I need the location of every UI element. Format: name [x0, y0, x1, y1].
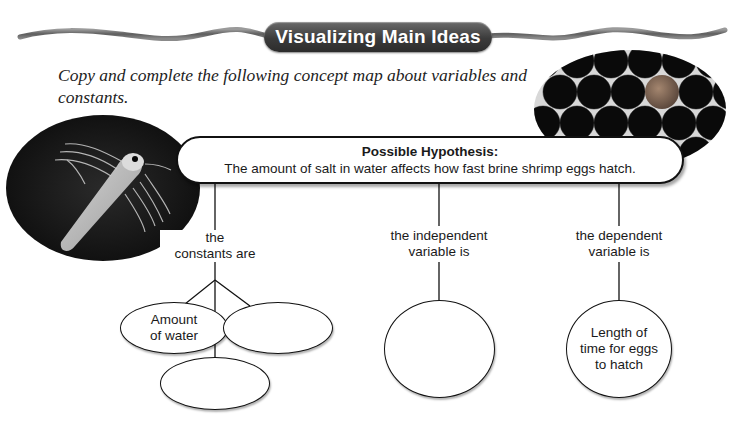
constants-label: the constants are	[160, 230, 270, 262]
dependent-label-line1: the dependent	[564, 228, 674, 244]
dependent-variable-label: the dependent variable is	[564, 228, 674, 260]
node-text-line1: Amount	[150, 312, 198, 328]
independent-variable-node[interactable]	[384, 300, 495, 398]
node-text-line3: to hatch	[580, 357, 658, 373]
independent-label-line2: variable is	[379, 244, 499, 260]
hypothesis-title: Possible Hypothesis:	[178, 143, 682, 160]
independent-variable-label: the independent variable is	[379, 228, 499, 260]
constant-node-amount-of-water[interactable]: Amount of water	[120, 302, 228, 354]
independent-label-line1: the independent	[379, 228, 499, 244]
hypothesis-box: Possible Hypothesis: The amount of salt …	[176, 136, 684, 184]
node-text-line2: of water	[150, 328, 198, 344]
constants-label-line2: constants are	[160, 246, 270, 262]
constant-node-blank-2[interactable]	[223, 302, 333, 354]
constant-node-blank-3[interactable]	[160, 357, 270, 410]
node-text-line2: time for eggs	[580, 341, 658, 357]
node-text-line1: Length of	[580, 325, 658, 341]
dependent-label-line2: variable is	[564, 244, 674, 260]
constants-label-line1: the	[160, 230, 270, 246]
dependent-variable-node[interactable]: Length of time for eggs to hatch	[566, 300, 672, 398]
hypothesis-text: The amount of salt in water affects how …	[178, 160, 682, 177]
